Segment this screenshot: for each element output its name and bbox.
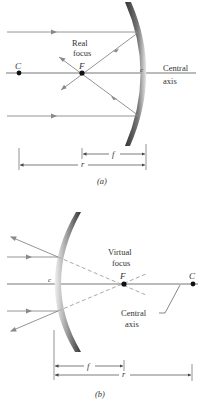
central-axis-label-2: axis [163,76,177,86]
arrow-icon [10,327,17,332]
central-axis-label-1-b: Central [121,308,147,318]
arrow-icon [51,30,57,35]
concave-mirror [125,2,146,146]
label-f-focus: F [78,61,85,71]
arrow-icon [26,309,32,314]
focal-length-label: f [112,149,116,159]
label-c-center: C [15,61,22,71]
arrow-icon [10,237,17,242]
center-of-curvature-point-b [191,282,196,287]
central-axis-label-1: Central [163,63,189,73]
virtual-focus-label-1: Virtual [108,247,132,257]
arrow-icon [51,114,57,119]
reflected-ray-bottom-b [11,311,58,331]
mirror-focus-diagram: C F c Real focus Central axis f r (a) [0,0,201,405]
axis-leader-line [159,285,180,313]
real-focus-label-1: Real [72,38,88,48]
radius-label-b: r [122,369,126,379]
arrow-icon [61,85,67,90]
focal-length-label-b: f [87,361,91,371]
convex-mirror [55,212,81,352]
real-focus-label-2: focus [73,48,91,58]
label-f-focus-b: F [119,271,126,281]
caption-a: (a) [97,176,107,186]
caption-b: (b) [95,389,105,399]
label-vertex-b: c [48,276,52,284]
virtual-focal-point [121,281,126,286]
center-of-curvature-point [17,71,22,76]
virtual-ray-top [58,257,146,295]
central-axis-label-2-b: axis [125,319,139,329]
focal-point [79,70,84,75]
radius-label: r [81,159,85,169]
arrow-icon [26,255,32,260]
reflected-ray-bottom [59,57,139,116]
panel-a: C F c Real focus Central axis f r (a) [6,2,196,186]
reflected-ray-top-b [11,237,58,257]
label-c-center-b: C [189,271,196,281]
panel-b: F C c Virtual focus Central axis f r (b) [7,212,198,399]
virtual-ray-bottom [58,274,146,311]
virtual-focus-label-2: focus [112,258,130,268]
